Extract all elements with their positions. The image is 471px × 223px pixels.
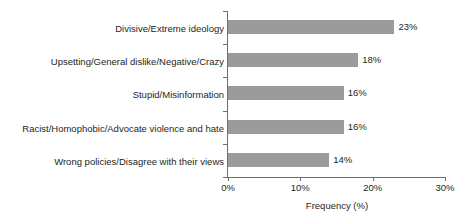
value-tick-label: 0% — [208, 181, 248, 194]
category-label: Wrong policies/Disagree with their views — [0, 156, 224, 168]
bar-value-label: 18% — [362, 52, 381, 67]
bar-row: 14% — [228, 144, 445, 177]
category-label: Upsetting/General dislike/Negative/Crazy — [0, 56, 224, 68]
horizontal-bar-chart: Divisive/Extreme ideology Upsetting/Gene… — [0, 0, 471, 223]
category-tick — [223, 11, 228, 12]
value-tick-label: 20% — [353, 181, 393, 194]
category-label: Divisive/Extreme ideology — [0, 23, 224, 35]
value-tick-label: 30% — [425, 181, 465, 194]
category-tick — [223, 77, 228, 78]
bar-value-label: 23% — [398, 19, 417, 34]
bar-row: 16% — [228, 111, 445, 144]
x-axis-title: Frequency (%) — [228, 199, 446, 212]
category-axis-labels: Divisive/Extreme ideology Upsetting/Gene… — [0, 11, 224, 177]
bar — [228, 20, 394, 34]
bar — [228, 153, 329, 167]
category-label: Racist/Homophobic/Advocate violence and … — [0, 123, 224, 135]
bar — [228, 86, 344, 100]
bar-value-label: 14% — [333, 152, 352, 167]
bar — [228, 53, 358, 67]
plot-area: 23% 18% 16% 16% 14% — [228, 11, 445, 177]
bar-row: 23% — [228, 11, 445, 44]
bar-row: 16% — [228, 77, 445, 110]
category-tick — [223, 144, 228, 145]
bar-value-label: 16% — [348, 119, 367, 134]
bar-row: 18% — [228, 44, 445, 77]
category-tick — [223, 44, 228, 45]
bar — [228, 120, 344, 134]
category-label: Stupid/Misinformation — [0, 89, 224, 101]
category-tick — [223, 111, 228, 112]
value-axis-line — [228, 177, 446, 178]
value-tick-label: 10% — [280, 181, 320, 194]
bar-value-label: 16% — [348, 85, 367, 100]
